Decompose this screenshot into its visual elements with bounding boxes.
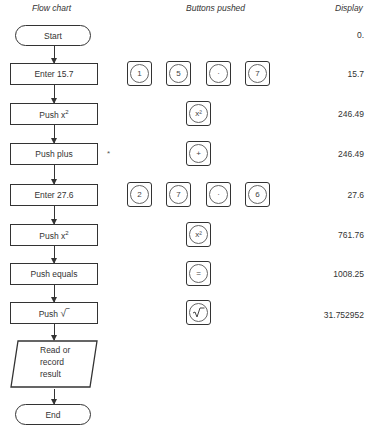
key-label: ·	[209, 185, 228, 204]
display-value: 1008.25	[333, 269, 364, 279]
display-value: 246.49	[338, 109, 364, 119]
flow-arrow	[54, 125, 55, 143]
key-label: 2	[130, 185, 149, 204]
display-value-initial: 0.	[357, 30, 364, 40]
display-value: 761.76	[338, 230, 364, 240]
step-enter-27-6: Enter 27.6	[10, 184, 98, 206]
key-label: x²	[189, 104, 208, 123]
key-decimal: ·	[206, 61, 231, 86]
step-push-equals: Push equals	[10, 263, 98, 285]
footnote-asterisk: *	[107, 149, 110, 158]
key-1: 1	[127, 61, 152, 86]
step-label: Enter 15.7	[34, 69, 73, 79]
buttons-pushed-header: Buttons pushed	[186, 3, 245, 13]
key-5: 5	[166, 61, 191, 86]
key-x-squared: x²	[186, 101, 211, 126]
key-label: 5	[169, 64, 188, 83]
flow-chart-header: Flow chart	[32, 3, 71, 13]
display-value: 246.49	[338, 149, 364, 159]
key-7: 7	[166, 182, 191, 207]
display-value: 15.7	[347, 69, 364, 79]
sqrt-symbol: √‾	[60, 308, 69, 319]
key-label: =	[189, 264, 208, 283]
flow-arrow	[54, 246, 55, 263]
step-enter-15-7: Enter 15.7	[10, 63, 98, 85]
key-label: ·	[209, 64, 228, 83]
flow-arrow	[54, 46, 55, 63]
end-terminal: End	[15, 404, 91, 425]
key-square-root	[186, 300, 211, 325]
step-push-x-squared: Push x2	[10, 103, 98, 125]
step-label: Push √‾	[39, 308, 70, 319]
flow-arrow	[54, 324, 55, 340]
key-2: 2	[127, 182, 152, 207]
step-label: Push x2	[39, 230, 68, 241]
key-label: x²	[189, 225, 208, 244]
start-terminal: Start	[15, 25, 91, 46]
step-label: Push plus	[35, 149, 72, 159]
flow-arrow	[54, 389, 55, 404]
display-header: Display	[335, 3, 363, 13]
key-label	[189, 303, 208, 322]
key-equals: =	[186, 261, 211, 286]
flow-arrow	[54, 85, 55, 103]
key-label: 6	[248, 185, 267, 204]
sqrt-icon	[192, 307, 205, 318]
step-label: Push x2	[39, 109, 68, 120]
step-push-x-squared: Push x2	[10, 224, 98, 246]
output-label: Read or record result	[40, 344, 90, 380]
key-plus: +	[186, 141, 211, 166]
flow-arrow	[54, 206, 55, 224]
key-6: 6	[245, 182, 270, 207]
start-label: Start	[44, 31, 62, 41]
step-label: Enter 27.6	[34, 190, 73, 200]
end-label: End	[45, 410, 60, 420]
key-label: 1	[130, 64, 149, 83]
step-label: Push equals	[31, 269, 78, 279]
step-push-plus: Push plus	[10, 143, 98, 165]
flow-arrow	[54, 165, 55, 184]
key-label: 7	[169, 185, 188, 204]
key-7: 7	[245, 61, 270, 86]
display-value: 27.6	[347, 190, 364, 200]
key-x-squared: x²	[186, 222, 211, 247]
key-label: 7	[248, 64, 267, 83]
flow-arrow	[54, 285, 55, 302]
display-value: 31.752952	[324, 310, 364, 320]
step-push-square-root: Push √‾	[10, 302, 98, 324]
key-decimal: ·	[206, 182, 231, 207]
key-label: +	[189, 144, 208, 163]
